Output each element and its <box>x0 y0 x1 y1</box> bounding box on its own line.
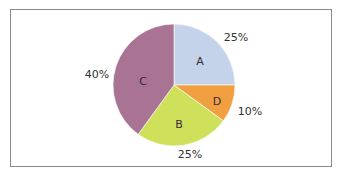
percent-label-c: 40% <box>85 68 109 81</box>
percent-label-b: 25% <box>178 148 202 161</box>
slice-label-c: C <box>139 75 147 88</box>
slice-label-b: B <box>175 118 183 131</box>
percent-label-d: 10% <box>238 105 262 118</box>
slice-label-d: D <box>213 95 221 108</box>
percent-label-a: 25% <box>224 31 248 44</box>
slice-label-a: A <box>196 55 204 68</box>
pie-chart: A25%D10%B25%C40% <box>0 0 341 176</box>
